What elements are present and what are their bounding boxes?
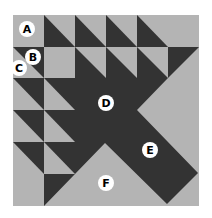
label-e: E — [142, 142, 158, 158]
label-text: C — [15, 62, 23, 75]
label-text: A — [23, 23, 32, 36]
label-c: C — [11, 60, 27, 76]
label-text: D — [101, 97, 110, 110]
label-text: E — [146, 144, 154, 157]
label-text: B — [29, 51, 37, 64]
label-b: B — [25, 49, 41, 65]
label-f: F — [98, 175, 114, 191]
quilt-block-diagram: ABCDEF — [0, 0, 212, 218]
label-a: A — [19, 21, 35, 37]
label-d: D — [98, 95, 114, 111]
label-text: F — [102, 177, 110, 190]
